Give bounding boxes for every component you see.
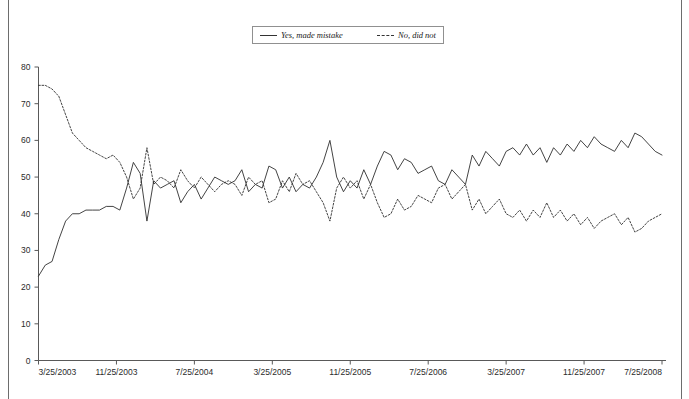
x-tick-label: 11/25/2003 xyxy=(95,367,137,377)
y-tick-label: 50 xyxy=(21,172,31,182)
x-tick-label: 11/25/2005 xyxy=(329,367,371,377)
chart-axes xyxy=(39,67,667,361)
x-tick-label: 7/25/2006 xyxy=(409,367,447,377)
x-tick-label: 3/25/2003 xyxy=(39,367,77,377)
y-axis-ticks: 01020304050607080 xyxy=(21,62,38,366)
y-tick-label: 60 xyxy=(21,135,31,145)
x-axis-ticks: 3/25/200311/25/20037/25/20043/25/200511/… xyxy=(39,361,663,377)
y-tick-label: 40 xyxy=(21,209,31,219)
y-tick-label: 20 xyxy=(21,282,31,292)
x-tick-label: 3/25/2007 xyxy=(487,367,525,377)
chart-series xyxy=(39,85,663,276)
x-tick-label: 7/25/2004 xyxy=(175,367,213,377)
series-line-2 xyxy=(39,85,663,232)
y-tick-label: 70 xyxy=(21,99,31,109)
figure-caption xyxy=(24,390,674,399)
x-tick-label: 3/25/2005 xyxy=(253,367,291,377)
y-tick-label: 0 xyxy=(26,356,31,366)
y-tick-label: 30 xyxy=(21,245,31,255)
x-tick-label: 7/25/2008 xyxy=(624,367,662,377)
y-tick-label: 10 xyxy=(21,319,31,329)
line-chart: 01020304050607080 3/25/200311/25/20037/2… xyxy=(0,0,689,399)
series-line-1 xyxy=(39,133,663,276)
x-tick-label: 11/25/2007 xyxy=(563,367,605,377)
chart-page: Yes, made mistake No, did not 0102030405… xyxy=(0,0,689,399)
y-tick-label: 80 xyxy=(21,62,31,72)
